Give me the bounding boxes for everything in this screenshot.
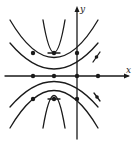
curves-plot bbox=[0, 0, 135, 142]
dot bbox=[95, 95, 99, 99]
dot bbox=[96, 74, 100, 78]
x-axis-label: x bbox=[126, 66, 131, 75]
y-axis-label: y bbox=[80, 5, 85, 14]
dot bbox=[75, 51, 79, 55]
dot bbox=[75, 97, 79, 101]
dot bbox=[75, 74, 79, 78]
dot bbox=[31, 51, 35, 55]
upper-narrow-parabola bbox=[43, 20, 65, 53]
upper-outer-curve bbox=[10, 43, 98, 69]
lower-outer-curve bbox=[10, 82, 98, 108]
dot bbox=[31, 74, 35, 78]
dot bbox=[95, 55, 99, 59]
dot bbox=[52, 97, 56, 101]
diagram: y x bbox=[0, 0, 135, 142]
dot bbox=[52, 51, 56, 55]
dot bbox=[31, 97, 35, 101]
y-axis-arrow bbox=[75, 6, 80, 12]
dot bbox=[52, 74, 56, 78]
